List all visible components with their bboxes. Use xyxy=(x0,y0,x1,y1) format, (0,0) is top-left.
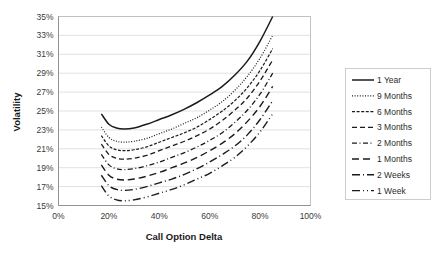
legend-label: 6 Months xyxy=(377,107,412,117)
x-tick-label: 80% xyxy=(252,211,269,221)
x-tick-label: 60% xyxy=(201,211,218,221)
legend-label: 1 Week xyxy=(377,186,406,196)
x-tick-label: 40% xyxy=(151,211,168,221)
series-line-2-weeks xyxy=(101,101,272,191)
y-tick-label: 17% xyxy=(36,182,53,192)
legend-label: 9 Months xyxy=(377,91,412,101)
y-tick-label: 31% xyxy=(36,49,53,59)
y-tick-label: 25% xyxy=(36,106,53,116)
x-tick-label: 20% xyxy=(100,211,117,221)
x-axis-tick-labels: 0%20%40%60%80%100% xyxy=(52,211,321,221)
series-line-9-months xyxy=(101,35,272,142)
y-tick-label: 29% xyxy=(36,68,53,78)
chart-canvas: 15%17%19%21%23%25%27%29%31%33%35% 0%20%4… xyxy=(0,0,440,263)
legend-label: 2 Months xyxy=(377,138,412,148)
series-lines xyxy=(101,17,272,201)
series-line-1-months xyxy=(101,86,272,180)
legend-label: 1 Year xyxy=(377,75,401,85)
y-tick-label: 21% xyxy=(36,144,53,154)
y-tick-label: 15% xyxy=(36,201,53,211)
legend-label: 2 Weeks xyxy=(377,170,410,180)
y-tick-label: 33% xyxy=(36,30,53,40)
legend-label: 3 Months xyxy=(377,122,412,132)
y-tick-label: 35% xyxy=(36,12,53,22)
x-tick-label: 100% xyxy=(300,211,322,221)
y-axis-tick-labels: 15%17%19%21%23%25%27%29%31%33%35% xyxy=(36,12,53,211)
legend-label: 1 Months xyxy=(377,154,412,164)
series-line-1-year xyxy=(101,17,272,129)
y-tick-label: 27% xyxy=(36,87,53,97)
gridlines xyxy=(59,17,311,206)
y-axis-title: Volatility xyxy=(11,92,22,132)
x-axis-title: Call Option Delta xyxy=(146,231,223,242)
y-tick-label: 19% xyxy=(36,163,53,173)
legend-box xyxy=(346,69,431,200)
y-tick-label: 23% xyxy=(36,125,53,135)
x-tick-label: 0% xyxy=(52,211,65,221)
series-line-1-week xyxy=(101,114,272,201)
volatility-smile-chart: 15%17%19%21%23%25%27%29%31%33%35% 0%20%4… xyxy=(0,0,440,263)
series-line-3-months xyxy=(101,60,272,159)
